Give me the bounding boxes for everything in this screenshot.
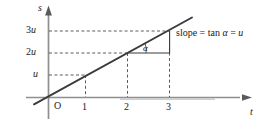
data-line xyxy=(34,18,192,105)
y-axis-label: s xyxy=(38,3,42,13)
x-tick-label-3: 3 xyxy=(166,102,171,112)
x-tick-label-1: 1 xyxy=(82,102,87,112)
y-tick-3u-unit: u xyxy=(31,24,36,35)
angle-alpha-label: α xyxy=(143,44,148,53)
y-tick-label-2u: 2u xyxy=(26,47,36,57)
origin-label: O xyxy=(54,101,61,111)
x-tick-label-2: 2 xyxy=(124,102,129,112)
x-axis-arrowhead xyxy=(242,94,252,100)
slope-annotation-suffix: = xyxy=(228,27,239,38)
graph-figure: s t O 3u 2u u 1 2 3 α slope = tan α = u xyxy=(0,0,270,127)
slope-annotation: slope = tan α = u xyxy=(176,28,243,38)
y-tick-u-unit: u xyxy=(33,68,38,79)
graph-canvas xyxy=(0,0,270,127)
y-tick-2u-unit: u xyxy=(31,46,36,57)
y-tick-label-u: u xyxy=(33,69,38,79)
y-tick-label-3u: 3u xyxy=(26,25,36,35)
slope-annotation-variable: u xyxy=(238,27,243,38)
slope-annotation-prefix: slope = tan xyxy=(176,27,222,38)
x-axis-label: t xyxy=(250,107,253,117)
y-axis-arrowhead xyxy=(45,6,52,16)
